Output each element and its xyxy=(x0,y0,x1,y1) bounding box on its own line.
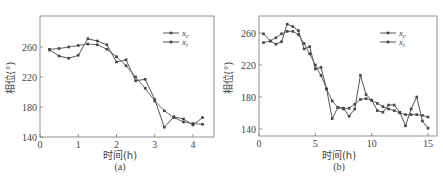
y-tick-label: 140 xyxy=(241,124,256,135)
data-point xyxy=(67,57,70,60)
series-line-xc xyxy=(50,39,203,128)
data-point xyxy=(96,43,99,46)
legend: xcxt xyxy=(163,28,189,48)
data-point xyxy=(292,25,295,28)
data-point xyxy=(182,121,185,124)
data-point xyxy=(67,46,70,49)
data-point xyxy=(286,30,289,33)
data-point xyxy=(153,100,156,103)
data-point xyxy=(280,41,283,44)
y-tick-label: 140 xyxy=(22,132,37,143)
data-point xyxy=(393,104,396,107)
data-point xyxy=(297,29,300,32)
data-point xyxy=(106,43,109,46)
x-tick-label: 15 xyxy=(423,138,433,149)
x-tick-label: 2 xyxy=(114,139,119,150)
legend-marker xyxy=(170,41,173,44)
data-point xyxy=(421,120,424,123)
data-point xyxy=(393,109,396,112)
x-axis-label: 时间(h) xyxy=(322,149,356,161)
series-line-xt xyxy=(50,44,203,124)
figure-canvas: 14018022026001234时间(h)相位(°)(a)xcxt140180… xyxy=(0,0,443,179)
data-point xyxy=(415,96,418,99)
data-point xyxy=(115,61,118,64)
data-point xyxy=(410,113,413,116)
data-point xyxy=(387,108,390,111)
data-point xyxy=(87,43,90,46)
data-point xyxy=(365,97,368,100)
data-point xyxy=(201,116,204,119)
plot-frame xyxy=(259,16,437,136)
data-point xyxy=(303,48,306,51)
panel-caption: (b) xyxy=(333,161,345,173)
x-tick-label: 0 xyxy=(257,138,262,149)
data-point xyxy=(192,122,195,125)
chart-panel-a: 14018022026001234时间(h)相位(°)(a)xcxt xyxy=(4,16,214,173)
y-axis-label: 相位(°) xyxy=(4,62,16,95)
data-point xyxy=(404,113,407,116)
data-point xyxy=(144,78,147,81)
data-point xyxy=(96,40,99,43)
x-tick-label: 4 xyxy=(191,139,196,150)
x-tick-label: 5 xyxy=(313,138,318,149)
x-tick-label: 3 xyxy=(152,139,157,150)
y-tick-label: 180 xyxy=(22,102,37,113)
data-point xyxy=(262,33,265,36)
data-point xyxy=(125,64,128,67)
legend-marker xyxy=(170,32,173,35)
data-point xyxy=(325,88,328,91)
data-point xyxy=(359,98,362,101)
data-point xyxy=(382,111,385,114)
data-point xyxy=(348,107,351,110)
data-point xyxy=(182,118,185,121)
chart-panel-b: 140180220260051015时间(h)相位(°)(b)xcxt xyxy=(222,16,437,173)
data-point xyxy=(342,108,345,111)
data-point xyxy=(134,79,137,82)
data-point xyxy=(314,64,317,67)
data-point xyxy=(353,108,356,111)
data-point xyxy=(308,53,311,56)
data-point xyxy=(308,45,311,48)
data-point xyxy=(77,44,80,47)
data-point xyxy=(286,23,289,26)
data-point xyxy=(201,123,204,126)
legend-marker xyxy=(387,41,390,44)
panel-caption: (a) xyxy=(114,161,125,173)
x-tick-label: 10 xyxy=(367,138,377,149)
data-point xyxy=(134,76,137,79)
data-point xyxy=(376,102,379,105)
y-tick-label: 180 xyxy=(241,92,256,103)
data-point xyxy=(399,112,402,115)
data-point xyxy=(337,106,340,109)
y-tick-label: 220 xyxy=(22,72,37,83)
data-point xyxy=(314,68,317,71)
data-point xyxy=(262,41,265,44)
data-point xyxy=(410,108,413,111)
data-point xyxy=(125,58,128,61)
data-point xyxy=(144,87,147,90)
data-point xyxy=(173,116,176,119)
legend: xcxt xyxy=(380,28,406,48)
data-point xyxy=(275,37,278,40)
y-axis-label: 相位(°) xyxy=(222,62,234,95)
data-point xyxy=(303,42,306,45)
data-point xyxy=(320,66,323,69)
data-point xyxy=(365,93,368,96)
data-point xyxy=(320,74,323,77)
data-point xyxy=(404,125,407,128)
data-point xyxy=(415,113,418,116)
data-point xyxy=(297,33,300,36)
legend-marker xyxy=(387,32,390,35)
data-point xyxy=(387,104,390,107)
x-tick-label: 0 xyxy=(38,139,43,150)
data-point xyxy=(87,37,90,40)
data-point xyxy=(427,127,430,130)
data-point xyxy=(348,115,351,118)
data-point xyxy=(427,116,430,119)
y-tick-label: 260 xyxy=(22,42,37,53)
data-point xyxy=(58,47,61,50)
data-point xyxy=(370,99,373,102)
series-line-xc xyxy=(264,24,429,128)
data-point xyxy=(292,30,295,33)
data-point xyxy=(280,33,283,36)
